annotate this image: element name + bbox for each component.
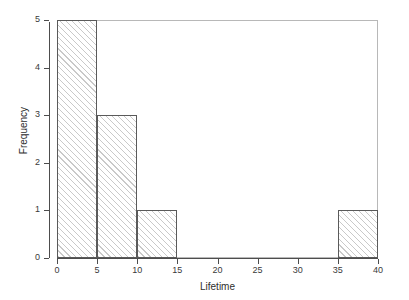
histogram-figure: 0510152025303540 012345 Lifetime Frequen… bbox=[0, 0, 409, 300]
x-tick-mark bbox=[258, 259, 259, 264]
y-axis-title: Frequency bbox=[18, 71, 29, 191]
x-tick-label: 0 bbox=[37, 265, 77, 276]
x-tick-label: 35 bbox=[318, 265, 358, 276]
histogram-bar bbox=[137, 210, 177, 258]
y-tick-label: 1 bbox=[24, 204, 40, 215]
histogram-bar bbox=[97, 115, 137, 258]
x-tick-mark bbox=[177, 259, 178, 264]
x-tick-mark bbox=[57, 259, 58, 264]
x-tick-label: 5 bbox=[77, 265, 117, 276]
x-tick-mark bbox=[137, 259, 138, 264]
x-tick-label: 25 bbox=[238, 265, 278, 276]
x-tick-label: 15 bbox=[157, 265, 197, 276]
y-tick-mark bbox=[44, 210, 49, 211]
y-tick-label: 5 bbox=[24, 14, 40, 25]
x-tick-mark bbox=[338, 259, 339, 264]
histogram-bar bbox=[338, 210, 378, 258]
x-tick-label: 10 bbox=[117, 265, 157, 276]
x-tick-label: 20 bbox=[198, 265, 238, 276]
y-tick-mark bbox=[44, 163, 49, 164]
x-tick-mark bbox=[298, 259, 299, 264]
y-tick-mark bbox=[44, 258, 49, 259]
y-axis-line bbox=[49, 22, 50, 258]
x-tick-mark bbox=[218, 259, 219, 264]
y-tick-mark bbox=[44, 115, 49, 116]
x-tick-label: 30 bbox=[278, 265, 318, 276]
x-tick-label: 40 bbox=[358, 265, 398, 276]
y-tick-mark bbox=[44, 20, 49, 21]
x-tick-mark bbox=[378, 259, 379, 264]
y-tick-label: 0 bbox=[24, 252, 40, 263]
histogram-bar bbox=[57, 20, 97, 258]
y-tick-mark bbox=[44, 68, 49, 69]
x-tick-mark bbox=[97, 259, 98, 264]
x-axis-title: Lifetime bbox=[57, 281, 378, 292]
bars-layer bbox=[0, 0, 409, 300]
